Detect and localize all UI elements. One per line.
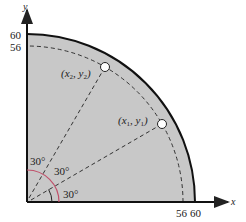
angle-label-bottom: 30°: [63, 188, 78, 200]
point-2-label: (x2, y2): [61, 67, 91, 81]
point-2-marker: [101, 63, 110, 72]
quarter-disc: [27, 34, 195, 202]
angle-label-middle: 30°: [54, 165, 69, 177]
x-axis-label: x: [230, 196, 236, 207]
y-axis-label: y: [22, 1, 28, 12]
point-1-label: (x1, y1): [118, 114, 148, 128]
angle-label-top: 30°: [30, 155, 45, 167]
point-1-marker: [158, 120, 167, 129]
x-tick-56: 56: [176, 207, 188, 219]
x-tick-60: 60: [190, 207, 202, 219]
y-tick-56: 56: [10, 41, 22, 53]
y-tick-60: 60: [10, 29, 22, 41]
quarter-circle-diagram: y x 60 56 56 60 (x2, y2) (x1, y1) 30° 30…: [0, 0, 246, 222]
